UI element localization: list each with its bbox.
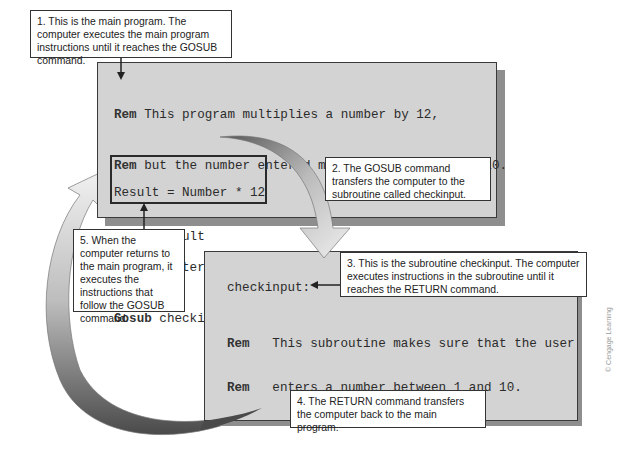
arrow-left-icon bbox=[310, 281, 318, 289]
callout-3: 3. This is the subroutine checkinput. Th… bbox=[340, 252, 587, 297]
callout-4: 4. The RETURN command transfers the comp… bbox=[290, 390, 486, 428]
callout-1: 1. This is the main program. The compute… bbox=[30, 10, 232, 58]
arrow-down-icon bbox=[117, 72, 125, 80]
arrow-up-icon bbox=[140, 203, 148, 211]
copyright-watermark: © Cengage Learning bbox=[605, 307, 612, 372]
callout-5: 5. When the computer returns to the main… bbox=[73, 229, 185, 312]
callout-2: 2. The GOSUB command transfers the compu… bbox=[325, 157, 491, 201]
